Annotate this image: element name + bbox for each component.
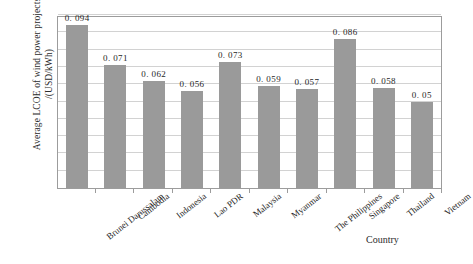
bar-value-label: 0. 058 bbox=[371, 76, 396, 87]
bar-slot: 0. 05 bbox=[403, 17, 441, 188]
bar-slot: 0. 094 bbox=[58, 17, 96, 188]
bar[interactable]: 0. 086 bbox=[334, 39, 356, 188]
bar-slot: 0. 073 bbox=[211, 17, 249, 188]
x-axis-label: Vietnam bbox=[442, 191, 472, 218]
x-axis-title: Country bbox=[366, 234, 399, 246]
bar-value-label: 0. 073 bbox=[218, 50, 243, 61]
bar-slot: 0. 062 bbox=[135, 17, 173, 188]
bar[interactable]: 0. 05 bbox=[411, 102, 433, 189]
bar[interactable]: 0. 059 bbox=[258, 86, 280, 188]
bar-value-label: 0. 062 bbox=[141, 69, 166, 80]
x-axis-label: Malaysia bbox=[250, 191, 282, 219]
bar[interactable]: 0. 062 bbox=[143, 81, 165, 188]
bar-value-label: 0. 071 bbox=[103, 53, 128, 64]
bar-slot: 0. 086 bbox=[326, 17, 364, 188]
bar-value-label: 0. 086 bbox=[333, 27, 358, 38]
bar[interactable]: 0. 073 bbox=[219, 62, 241, 188]
y-axis-title-line2: /(USD/kWh) bbox=[43, 49, 55, 99]
x-axis-label: Lao PDR bbox=[212, 191, 245, 220]
plot-area: 0. 0940. 0710. 0620. 0560. 0730. 0590. 0… bbox=[57, 16, 442, 189]
bar[interactable]: 0. 071 bbox=[104, 65, 126, 188]
bar-value-label: 0. 094 bbox=[65, 13, 90, 24]
bar-slot: 0. 056 bbox=[173, 17, 211, 188]
bar-slot: 0. 057 bbox=[288, 17, 326, 188]
bar-value-label: 0. 057 bbox=[294, 77, 319, 88]
bar-value-label: 0. 059 bbox=[256, 74, 281, 85]
bar-slot: 0. 059 bbox=[249, 17, 287, 188]
bar[interactable]: 0. 058 bbox=[373, 88, 395, 188]
bar[interactable]: 0. 094 bbox=[66, 25, 88, 188]
bars-layer: 0. 0940. 0710. 0620. 0560. 0730. 0590. 0… bbox=[58, 17, 441, 188]
bar-slot: 0. 071 bbox=[96, 17, 134, 188]
bar-value-label: 0. 05 bbox=[412, 90, 432, 101]
bar[interactable]: 0. 056 bbox=[181, 91, 203, 188]
bar-value-label: 0. 056 bbox=[180, 79, 205, 90]
bar[interactable]: 0. 057 bbox=[296, 89, 318, 188]
y-axis-title-line1: Average LCOE of wind power projects bbox=[31, 0, 43, 150]
x-axis-label: Indonesia bbox=[174, 191, 208, 220]
bar-slot: 0. 058 bbox=[364, 17, 402, 188]
x-axis-label: Thailand bbox=[404, 191, 435, 219]
gridline bbox=[58, 14, 441, 15]
x-axis-label: Myanmar bbox=[289, 191, 323, 220]
